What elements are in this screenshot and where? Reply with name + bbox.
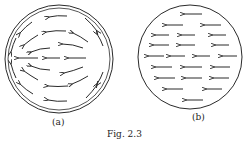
field-arrows-a [11, 16, 103, 102]
figure-caption: Fig. 2.3 [107, 129, 142, 139]
outer-circle-a [5, 5, 113, 113]
outer-circle-b [138, 5, 242, 109]
panel-a-label: (a) [52, 117, 64, 127]
field-arrows-b [148, 14, 237, 100]
panel-b-label: (b) [192, 112, 205, 122]
figure-canvas [0, 0, 246, 141]
inner-circle-a [8, 8, 110, 110]
panel-a [5, 5, 113, 113]
panel-b [138, 5, 242, 109]
